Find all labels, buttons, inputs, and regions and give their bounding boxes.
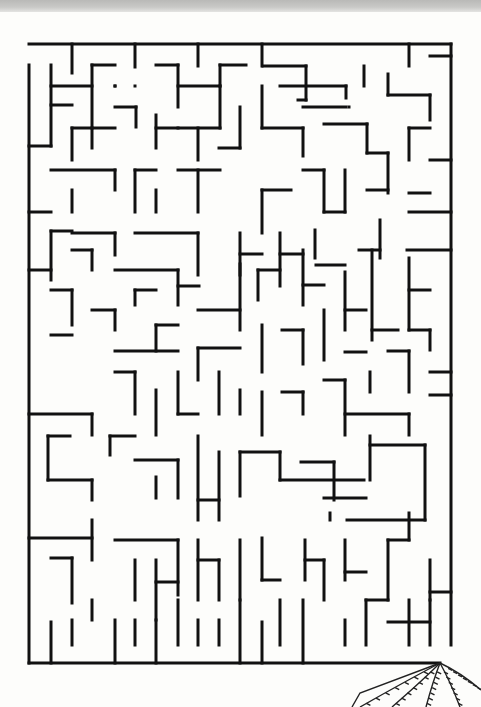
- fan-hatch: [414, 677, 418, 679]
- fan-hatch: [446, 677, 450, 679]
- fan-hatch: [451, 688, 455, 690]
- fan-hatch: [436, 677, 440, 679]
- fan-hatch: [366, 703, 370, 705]
- fan-hatch: [419, 682, 423, 684]
- fan-hatch: [449, 682, 453, 684]
- fan-hatch: [429, 698, 433, 700]
- fan-hatch: [405, 682, 409, 684]
- fan-hatch: [386, 693, 390, 695]
- fan-hatch: [432, 688, 436, 690]
- fan-hatch: [444, 672, 448, 674]
- fan-hatch: [395, 688, 399, 690]
- fan-hatch: [425, 677, 429, 679]
- fan-hatch: [430, 693, 434, 695]
- fan-hatch: [376, 698, 380, 700]
- fan-hatch: [396, 703, 400, 705]
- fan-hatch: [454, 693, 458, 695]
- fan-hatch: [434, 682, 438, 684]
- fan-hatch: [407, 693, 411, 695]
- fan-hatch: [473, 685, 477, 687]
- fan-hatch: [402, 698, 406, 700]
- fan-hatch: [427, 703, 431, 705]
- fan-hatch: [430, 672, 434, 674]
- fan-hatch: [437, 672, 441, 674]
- fan-drawing: [0, 0, 481, 707]
- fan-hatch: [413, 688, 417, 690]
- fan-hatch: [424, 672, 428, 674]
